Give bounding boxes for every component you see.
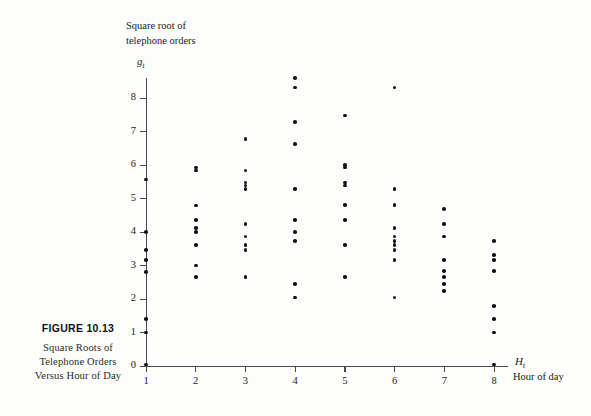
data-point	[144, 248, 148, 252]
data-point	[492, 253, 496, 257]
y-axis-tick	[140, 299, 146, 300]
data-point	[492, 269, 496, 273]
data-point	[393, 239, 397, 243]
data-point	[144, 178, 148, 182]
data-point	[293, 230, 297, 234]
x-axis-tick	[195, 366, 196, 372]
data-point	[492, 258, 496, 262]
x-axis-tick	[295, 366, 296, 372]
data-point	[393, 203, 397, 207]
x-axis-tick-label: 3	[235, 375, 255, 386]
data-point	[293, 187, 297, 191]
figure-number: FIGURE 10.13	[18, 322, 138, 336]
data-point	[244, 275, 248, 279]
data-point	[194, 264, 198, 268]
data-point	[393, 226, 397, 230]
data-point	[194, 230, 198, 234]
data-point	[442, 207, 446, 211]
data-point	[492, 331, 496, 335]
figure-caption-line-2: Telephone Orders	[18, 355, 138, 369]
data-point	[293, 142, 297, 146]
data-point	[492, 363, 496, 367]
x-axis-line	[146, 366, 508, 367]
y-axis-tick	[140, 98, 146, 99]
data-point	[293, 218, 297, 222]
data-point	[393, 187, 397, 191]
figure-caption-line-3: Versus Hour of Day	[18, 369, 138, 383]
data-point	[393, 235, 397, 239]
y-axis-tick	[140, 131, 146, 132]
data-point	[442, 222, 446, 226]
x-axis-tick	[494, 366, 495, 372]
data-point	[492, 317, 496, 321]
data-point	[293, 239, 297, 243]
data-point	[343, 243, 347, 247]
figure-page: Square root of telephone orders gt Ht Ho…	[0, 0, 591, 416]
data-point	[244, 187, 248, 191]
y-axis-tick-label: 7	[120, 125, 136, 136]
x-axis-tick	[146, 366, 147, 372]
data-point	[194, 275, 198, 279]
data-point	[343, 166, 347, 170]
data-point	[244, 169, 248, 173]
x-axis-tick-label: 5	[335, 375, 355, 386]
y-axis-tick	[140, 265, 146, 266]
data-point	[244, 235, 248, 239]
data-point	[442, 289, 446, 293]
data-point	[244, 248, 248, 252]
data-point	[343, 114, 347, 118]
data-point	[194, 243, 198, 247]
data-point	[343, 203, 347, 207]
y-axis-tick-label: 8	[120, 91, 136, 102]
y-axis-tick-label: 3	[120, 259, 136, 270]
data-point	[144, 230, 148, 234]
data-point	[144, 270, 148, 274]
x-axis-tick-label: 1	[136, 375, 156, 386]
data-point	[442, 235, 446, 239]
data-point	[293, 282, 297, 286]
data-point	[144, 258, 148, 262]
y-axis-tick	[140, 198, 146, 199]
data-point	[144, 363, 148, 367]
data-point	[393, 248, 397, 252]
data-point	[244, 137, 248, 141]
data-point	[293, 120, 297, 124]
data-point	[442, 282, 446, 286]
data-point	[293, 86, 297, 90]
data-point	[492, 239, 496, 243]
data-point	[343, 218, 347, 222]
data-point	[393, 296, 397, 300]
data-point	[343, 184, 347, 188]
x-axis-tick-label: 8	[484, 375, 504, 386]
y-axis-tick-label: 2	[120, 292, 136, 303]
data-point	[244, 243, 248, 247]
data-point	[393, 258, 397, 262]
data-point	[393, 243, 397, 247]
x-axis-tick	[245, 366, 246, 372]
data-point	[194, 218, 198, 222]
x-axis-tick	[444, 366, 445, 372]
y-axis-line	[146, 78, 147, 366]
x-axis-tick	[394, 366, 395, 372]
data-point	[244, 222, 248, 226]
y-axis-tick-label: 5	[120, 192, 136, 203]
data-point	[442, 269, 446, 273]
x-axis-tick-label: 2	[186, 375, 206, 386]
data-point	[442, 275, 446, 279]
y-axis-tick	[140, 165, 146, 166]
data-point	[194, 169, 198, 173]
y-axis-tick-label: 6	[120, 158, 136, 169]
data-point	[293, 76, 297, 80]
x-axis-tick-label: 6	[385, 375, 405, 386]
data-point	[343, 275, 347, 279]
figure-caption: FIGURE 10.13 Square Roots of Telephone O…	[18, 322, 138, 382]
x-axis-tick-label: 4	[285, 375, 305, 386]
figure-caption-line-1: Square Roots of	[18, 341, 138, 355]
data-point	[393, 86, 397, 90]
data-point	[144, 331, 148, 335]
data-point	[194, 204, 198, 208]
data-point	[144, 317, 148, 321]
data-point	[492, 304, 496, 308]
data-point	[442, 258, 446, 262]
x-axis-tick	[344, 366, 345, 372]
